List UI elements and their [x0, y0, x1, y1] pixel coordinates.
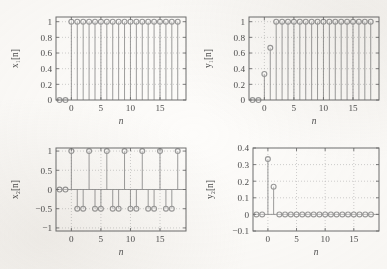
- x-axis-label: n: [314, 247, 319, 257]
- y-tick-label: 0.5: [41, 166, 53, 176]
- y-tick-label: 0.6: [234, 48, 246, 58]
- x-tick-label: 5: [99, 234, 104, 244]
- x-tick-label: 0: [266, 234, 271, 244]
- y-tick-label: 0.4: [238, 143, 250, 153]
- x-tick-label: 10: [126, 234, 136, 244]
- y-axis-label: y₂[n]: [205, 180, 215, 199]
- stem-plot-y1: 05101500.20.40.60.81ny₁[n]: [193, 0, 387, 134]
- panel-x2: 051015−1−0.500.51nx₂[n]: [0, 134, 194, 269]
- x-tick-label: 0: [262, 103, 267, 113]
- y-tick-label: 0.8: [41, 33, 53, 43]
- x-tick-label: 0: [69, 103, 74, 113]
- figure-panel-grid: 05101500.20.40.60.81nx₁[n] 05101500.20.4…: [0, 0, 387, 269]
- x-tick-label: 5: [294, 234, 299, 244]
- y-tick-label: 0: [240, 95, 245, 105]
- y-tick-label: 0.2: [41, 80, 53, 90]
- x-tick-label: 15: [155, 103, 165, 113]
- y-tick-label: 0.2: [238, 177, 250, 187]
- y-axis-label: x₂[n]: [10, 180, 20, 199]
- x-tick-label: 15: [348, 103, 358, 113]
- y-tick-label: −0.5: [35, 204, 52, 214]
- y-tick-label: 1: [47, 146, 52, 156]
- x-tick-label: 10: [321, 234, 331, 244]
- x-tick-label: 10: [319, 103, 329, 113]
- x-axis-label: n: [312, 116, 317, 126]
- stem-plot-x1: 05101500.20.40.60.81nx₁[n]: [0, 0, 194, 134]
- x-axis-label: n: [119, 116, 124, 126]
- x-tick-label: 5: [292, 103, 297, 113]
- y-axis-label: y₁[n]: [203, 49, 213, 68]
- x-axis-label: n: [119, 247, 124, 257]
- x-tick-label: 15: [349, 234, 359, 244]
- y-tick-label: 0.1: [238, 193, 250, 203]
- x-tick-label: 5: [99, 103, 104, 113]
- x-tick-label: 0: [69, 234, 74, 244]
- y-tick-label: 0.2: [234, 80, 246, 90]
- stem-plot-y2: 051015−0.100.10.20.30.4ny₂[n]: [193, 134, 387, 269]
- y-tick-label: −0.1: [232, 226, 249, 236]
- y-tick-label: 1: [240, 17, 245, 27]
- y-tick-label: 0.6: [41, 48, 53, 58]
- y-tick-label: 0: [47, 95, 52, 105]
- y-tick-label: 0: [244, 210, 249, 220]
- panel-x1: 05101500.20.40.60.81nx₁[n]: [0, 0, 194, 134]
- x-tick-label: 10: [126, 103, 136, 113]
- y-tick-label: 0.8: [234, 33, 246, 43]
- y-axis-label: x₁[n]: [10, 49, 20, 68]
- y-tick-label: −1: [42, 223, 52, 233]
- y-tick-label: 1: [47, 17, 52, 27]
- y-tick-label: 0: [47, 185, 52, 195]
- y-tick-label: 0.4: [41, 64, 53, 74]
- stem-plot-x2: 051015−1−0.500.51nx₂[n]: [0, 134, 194, 269]
- y-tick-label: 0.4: [234, 64, 246, 74]
- panel-y1: 05101500.20.40.60.81ny₁[n]: [193, 0, 387, 134]
- panel-y2: 051015−0.100.10.20.30.4ny₂[n]: [193, 134, 387, 269]
- x-tick-label: 15: [155, 234, 165, 244]
- y-tick-label: 0.3: [238, 160, 250, 170]
